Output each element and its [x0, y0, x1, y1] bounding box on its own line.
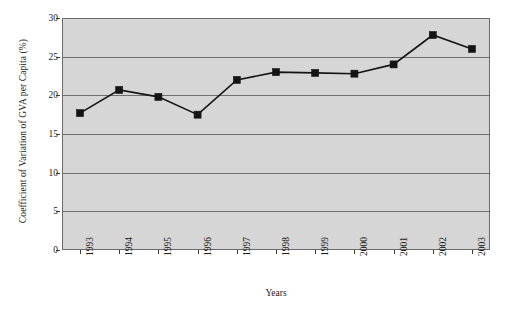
y-tick-label: 5 [32, 206, 58, 216]
x-axis-ticks: 1993199419951996199719981999200020012002… [62, 250, 490, 286]
y-tick-mark [56, 95, 60, 96]
data-point-marker [77, 110, 84, 117]
x-tick-label: 2002 [438, 237, 448, 256]
y-tick-label: 10 [32, 168, 58, 178]
y-tick-mark [56, 211, 60, 212]
data-series-layer [62, 18, 490, 250]
x-tick-mark [237, 250, 238, 254]
data-point-marker [116, 86, 123, 93]
data-point-marker [469, 45, 476, 52]
data-point-marker [312, 69, 319, 76]
x-tick-mark [158, 250, 159, 254]
y-tick-label: 20 [32, 90, 58, 100]
x-tick-label: 2003 [477, 237, 487, 256]
y-tick-mark [56, 250, 60, 251]
data-point-marker [429, 32, 436, 39]
x-tick-label: 1996 [203, 237, 213, 256]
x-tick-mark [198, 250, 199, 254]
y-axis-ticks: 051015202530 [30, 18, 58, 250]
y-tick-label: 30 [32, 13, 58, 23]
x-axis-title: Years [62, 288, 490, 298]
x-tick-label: 2000 [359, 237, 369, 256]
x-tick-label: 1995 [163, 237, 173, 256]
x-tick-mark [433, 250, 434, 254]
data-point-marker [233, 76, 240, 83]
y-tick-label: 25 [32, 52, 58, 62]
x-tick-mark [80, 250, 81, 254]
x-tick-label: 1998 [281, 237, 291, 256]
x-tick-label: 1997 [242, 237, 252, 256]
x-tick-mark [315, 250, 316, 254]
y-tick-mark [56, 134, 60, 135]
x-tick-mark [276, 250, 277, 254]
y-tick-mark [56, 57, 60, 58]
x-tick-mark [472, 250, 473, 254]
x-tick-mark [354, 250, 355, 254]
chart-figure: Coefficient of Variation of GVA per Capi… [0, 0, 524, 309]
y-tick-label: 15 [32, 129, 58, 139]
x-tick-label: 1993 [85, 237, 95, 256]
x-tick-mark [119, 250, 120, 254]
x-tick-label: 1999 [320, 237, 330, 256]
x-tick-mark [394, 250, 395, 254]
data-point-marker [273, 69, 280, 76]
data-point-marker [194, 111, 201, 118]
data-point-marker [390, 61, 397, 68]
y-tick-mark [56, 173, 60, 174]
x-tick-label: 1994 [124, 237, 134, 256]
data-point-marker [155, 93, 162, 100]
y-tick-label: 0 [32, 245, 58, 255]
data-point-marker [351, 70, 358, 77]
y-tick-mark [56, 18, 60, 19]
x-tick-label: 2001 [399, 237, 409, 256]
